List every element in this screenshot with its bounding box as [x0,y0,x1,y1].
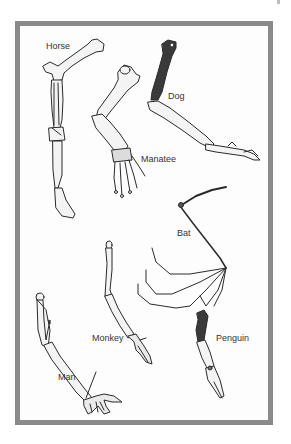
manatee-limb-drawing [92,65,145,198]
dog-radius-ulna [148,101,214,148]
horse-limb-drawing [43,39,104,218]
manatee-radius-ulna [92,114,128,152]
label-penguin: Penguin [216,334,249,343]
bat-humerus [180,187,226,206]
monkey-humerus [105,248,112,296]
label-manatee: Manatee [141,155,176,164]
label-monkey: Monkey [92,334,124,343]
label-horse: Horse [46,42,70,51]
monkey-radius-ulna [105,294,134,338]
label-bat: Bat [177,229,191,238]
man-arm-drawing [36,293,122,414]
horse-cannon-bone [53,141,62,188]
label-dog: Dog [168,92,185,101]
man-humerus [37,300,50,348]
dog-limb-drawing [148,40,260,160]
penguin-humerus [196,310,208,342]
penguin-flipper-drawing [196,310,224,398]
penguin-radius-ulna [197,340,214,370]
limb-illustrations [0,0,291,444]
horse-carpals [49,127,65,141]
monkey-arm-drawing [105,241,152,364]
dog-paw [206,144,260,160]
horse-radius [51,80,63,128]
label-man: Man [58,373,76,382]
manatee-humerus [96,65,140,120]
bat-wing-drawing [138,187,226,308]
horse-hoof [55,188,75,218]
penguin-digits [206,366,224,398]
